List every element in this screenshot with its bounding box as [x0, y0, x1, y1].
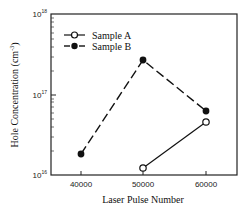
y-tick-label-1e18: 1018 — [33, 8, 48, 19]
sample-b-point-40000 — [78, 151, 85, 158]
x-tick-label-50000: 50000 — [132, 180, 155, 189]
sample-a-point-60000 — [203, 119, 209, 125]
y-axis-title: Hole Concentration (cm-3) — [9, 43, 21, 148]
legend-label-sample-b: Sample B — [92, 41, 131, 52]
legend-marker-filled-circle-icon — [71, 43, 77, 49]
legend: Sample A Sample B — [64, 30, 132, 52]
sample-b-point-60000 — [203, 108, 210, 115]
y-tick-label-1e17: 1017 — [33, 89, 48, 100]
plot-frame — [51, 14, 237, 175]
chart: 1016 1017 1018 40000 50000 60000 Laser P… — [0, 0, 248, 212]
sample-a-point-50000 — [140, 165, 146, 171]
y-tick-label-1e16: 1016 — [33, 169, 48, 180]
sample-b-point-50000 — [140, 57, 147, 64]
x-tick-label-40000: 40000 — [70, 180, 93, 189]
x-tick-label-60000: 60000 — [195, 180, 218, 189]
series-sample-b-line — [81, 60, 206, 154]
series-sample-a-line — [143, 122, 206, 168]
legend-marker-open-circle-icon — [72, 32, 78, 38]
x-axis-title: Laser Pulse Number — [102, 194, 184, 205]
legend-label-sample-a: Sample A — [92, 30, 132, 41]
